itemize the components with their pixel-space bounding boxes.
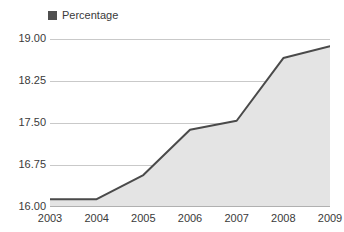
y-tick-label-1: 16.75 [2,159,46,170]
x-tick-label-2005: 2005 [131,213,155,224]
chart-container: Percentage 19.00 18.25 17.50 16.75 16.00… [0,0,344,232]
legend-swatch-percentage [48,11,57,20]
series-area-percentage [50,46,330,207]
y-tick-label-0: 16.00 [2,201,46,212]
legend-label-percentage: Percentage [62,10,118,21]
chart-legend: Percentage [48,7,118,23]
y-tick-label-4: 19.00 [2,33,46,44]
x-axis-labels: 2003 2004 2005 2006 2007 2008 2009 [50,210,330,228]
y-tick-label-3: 18.25 [2,75,46,86]
x-tick-label-2006: 2006 [178,213,202,224]
y-tick-label-2: 17.50 [2,117,46,128]
y-axis-labels: 19.00 18.25 17.50 16.75 16.00 [0,0,46,232]
x-tick-label-2004: 2004 [84,213,108,224]
area-chart-svg [50,39,330,207]
x-tick-label-2003: 2003 [38,213,62,224]
x-tick-label-2007: 2007 [224,213,248,224]
x-tick-label-2008: 2008 [271,213,295,224]
plot-area [50,39,330,207]
x-tick-label-2009: 2009 [318,213,342,224]
